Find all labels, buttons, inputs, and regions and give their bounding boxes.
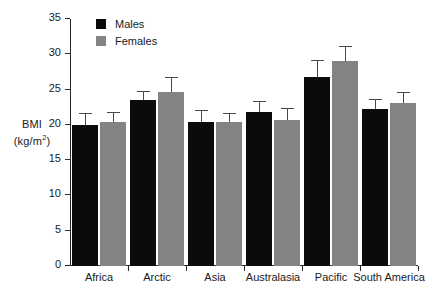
error-bar-cap: [79, 113, 92, 114]
bar-arctic-males: [130, 100, 156, 266]
y-axis-tick-label: 35: [49, 11, 61, 23]
error-bar-stem: [201, 111, 202, 122]
error-bar-cap: [339, 46, 352, 47]
error-bar-cap: [281, 108, 294, 109]
y-axis-tick-label: 5: [55, 223, 61, 235]
error-bar-stem: [287, 109, 288, 120]
bmi-bar-chart: BMI (kg/m2) Males Females 05101520253035…: [0, 0, 427, 299]
y-axis-title-main: BMI: [22, 118, 42, 130]
bar-arctic-females: [158, 92, 184, 266]
category-label-arctic: Arctic: [143, 271, 171, 283]
bar-pacific-females: [332, 61, 358, 266]
category-label-pacific: Pacific: [315, 271, 347, 283]
error-bar-cap: [107, 112, 120, 113]
bars-layer: [70, 19, 418, 266]
error-bar-stem: [345, 47, 346, 60]
plot-area: 05101520253035: [70, 19, 418, 266]
error-bar-stem: [403, 93, 404, 103]
category-label-south-america: South America: [353, 271, 425, 283]
error-bar-cap: [195, 110, 208, 111]
error-bar-cap: [137, 91, 150, 92]
error-bar-cap: [253, 101, 266, 102]
error-bar-stem: [143, 92, 144, 100]
category-label-africa: Africa: [85, 271, 113, 283]
bar-asia-females: [216, 122, 242, 266]
error-bar-stem: [317, 61, 318, 77]
bar-australasia-males: [246, 112, 272, 266]
category-label-asia: Asia: [204, 271, 225, 283]
error-bar-stem: [85, 114, 86, 125]
y-axis-title-unit: (kg/m2): [6, 131, 58, 148]
error-bar-cap: [311, 60, 324, 61]
error-bar-stem: [113, 113, 114, 122]
bar-australasia-females: [274, 120, 300, 266]
error-bar-cap: [397, 92, 410, 93]
x-axis-tick: [302, 266, 303, 271]
y-axis-tick-label: 0: [55, 258, 61, 270]
category-label-australasia: Australasia: [246, 271, 300, 283]
bar-asia-males: [188, 122, 214, 266]
y-axis-tick-label: 20: [49, 117, 61, 129]
y-axis-tick-label: 15: [49, 152, 61, 164]
error-bar-stem: [171, 78, 172, 91]
error-bar-stem: [259, 102, 260, 112]
y-axis-tick-label: 25: [49, 82, 61, 94]
bar-africa-females: [100, 122, 126, 266]
bar-south-america-females: [390, 103, 416, 266]
y-axis-tick-label: 30: [49, 46, 61, 58]
error-bar-cap: [165, 77, 178, 78]
bar-africa-males: [72, 125, 98, 266]
x-axis-tick: [186, 266, 187, 271]
y-axis-unit-prefix: (kg/m: [14, 135, 43, 147]
y-axis-tick-label: 10: [49, 187, 61, 199]
error-bar-stem: [229, 114, 230, 122]
error-bar-cap: [223, 113, 236, 114]
y-axis-unit-suffix: ): [47, 135, 51, 147]
error-bar-stem: [375, 100, 376, 108]
x-axis-tick: [128, 266, 129, 271]
bar-south-america-males: [362, 109, 388, 266]
bar-pacific-males: [304, 77, 330, 266]
error-bar-cap: [369, 99, 382, 100]
